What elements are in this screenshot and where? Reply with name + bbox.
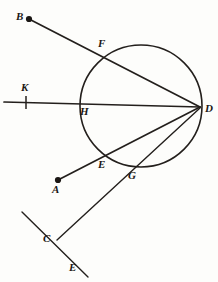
segment-kd <box>4 102 200 107</box>
segment-bd <box>29 19 200 107</box>
point-label-c: C <box>43 233 50 244</box>
point-label-e-lower: E <box>69 262 76 273</box>
point-label-g: G <box>128 170 136 181</box>
point-label-d: D <box>205 103 213 114</box>
geometry-canvas <box>0 0 218 282</box>
point-label-e: E <box>98 159 105 170</box>
geometry-figure: B F K H D E A G C E <box>0 0 218 282</box>
point-label-h: H <box>80 106 89 117</box>
point-label-k: K <box>21 82 28 93</box>
point-dot-b <box>26 16 32 22</box>
segment-ce <box>22 212 88 277</box>
point-label-b: B <box>16 11 23 22</box>
point-label-f: F <box>98 38 105 49</box>
point-label-a: A <box>52 184 59 195</box>
